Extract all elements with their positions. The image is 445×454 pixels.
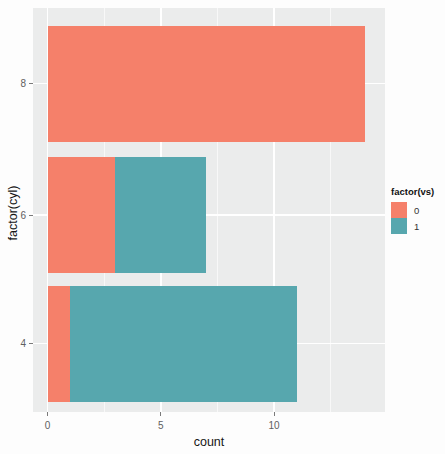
legend-items: 01 xyxy=(391,202,445,234)
bar-cyl4-vs0 xyxy=(48,286,71,402)
bar-cyl6-vs1 xyxy=(115,157,206,273)
y-tick-4 xyxy=(29,343,33,344)
legend: factor(vs) 01 xyxy=(391,186,445,234)
x-tick-label-10: 10 xyxy=(262,420,286,431)
x-tick-10 xyxy=(274,412,275,416)
legend-item-0: 0 xyxy=(391,202,445,218)
x-tick-label-5: 5 xyxy=(149,420,173,431)
x-axis-title: count xyxy=(109,435,309,449)
x-tick-5 xyxy=(160,412,161,416)
stacked-bar-chart-figure: 0510864 count factor(cyl) factor(vs) 01 xyxy=(0,0,445,454)
legend-swatch-0 xyxy=(391,202,407,218)
bar-cyl4-vs1 xyxy=(70,286,297,402)
y-tick-8 xyxy=(29,83,33,84)
y-tick-label-8: 8 xyxy=(6,78,26,89)
legend-swatch-1 xyxy=(391,218,407,234)
legend-item-1: 1 xyxy=(391,218,445,234)
plot-panel xyxy=(33,8,385,412)
y-tick-label-4: 4 xyxy=(6,338,26,349)
legend-title: factor(vs) xyxy=(391,186,445,197)
legend-item-label-0: 0 xyxy=(414,205,419,216)
bar-cyl8-vs0 xyxy=(48,26,365,142)
legend-item-label-1: 1 xyxy=(414,221,419,232)
bar-cyl6-vs0 xyxy=(48,157,116,273)
x-tick-label-0: 0 xyxy=(36,420,60,431)
x-tick-0 xyxy=(47,412,48,416)
y-axis-title: factor(cyl) xyxy=(6,186,20,241)
y-tick-6 xyxy=(29,215,33,216)
